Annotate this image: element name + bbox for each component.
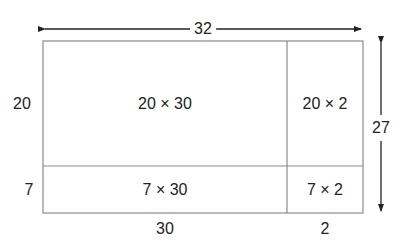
height-part-bottom-label: 7 xyxy=(25,181,34,199)
cell-top-left: 20 × 30 xyxy=(138,95,192,113)
cell-bottom-left: 7 × 30 xyxy=(143,181,188,199)
total-height-label: 27 xyxy=(372,115,390,141)
height-part-top-label: 20 xyxy=(13,95,31,113)
width-part-left-label: 30 xyxy=(156,220,174,238)
width-part-right-label: 2 xyxy=(321,220,330,238)
total-width-label: 32 xyxy=(190,20,216,38)
cell-top-right: 20 × 2 xyxy=(303,95,348,113)
cell-bottom-right: 7 × 2 xyxy=(307,181,343,199)
